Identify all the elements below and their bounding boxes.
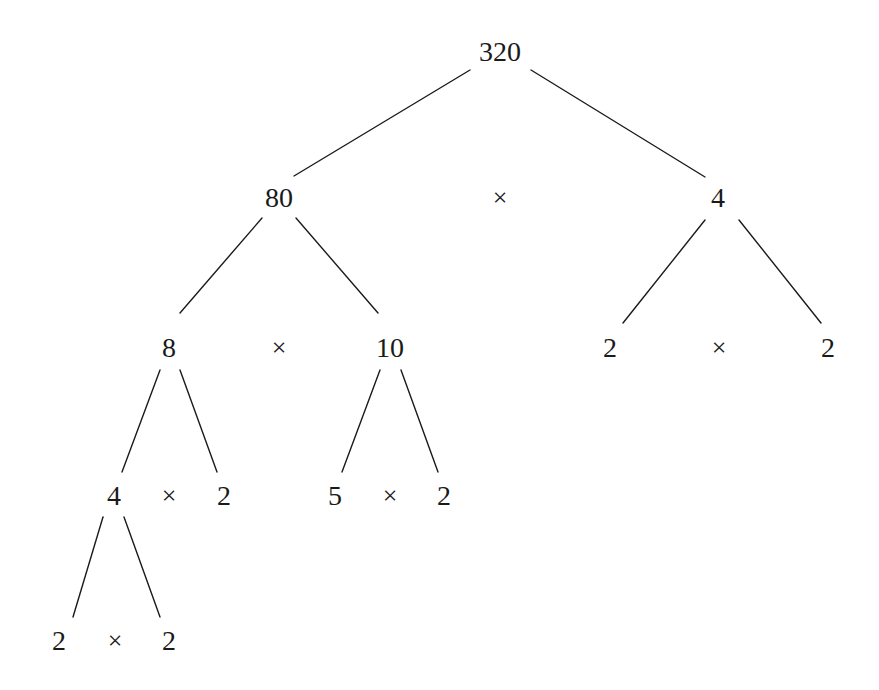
node-2-b: 2 — [821, 334, 835, 362]
times-symbol-80x4: × — [493, 185, 508, 211]
edge-8-4 — [122, 370, 160, 472]
node-2-f: 2 — [162, 627, 176, 655]
edge-80-8 — [180, 218, 262, 313]
times-symbol-8x10: × — [272, 335, 287, 361]
tree-edges — [0, 0, 879, 690]
edge-4-2-right — [739, 220, 821, 323]
node-8: 8 — [162, 334, 176, 362]
edge-10-2 — [401, 370, 438, 472]
node-2-a: 2 — [603, 334, 617, 362]
node-320: 320 — [479, 38, 521, 66]
edge-4-2-leaf-left — [73, 517, 103, 617]
edge-320-80 — [294, 70, 470, 176]
node-10: 10 — [376, 334, 404, 362]
edge-10-5 — [342, 370, 380, 472]
edge-4-2-leaf-right — [124, 517, 160, 617]
times-symbol-4x2: × — [162, 483, 177, 509]
node-4-level3: 4 — [107, 482, 121, 510]
node-2-e: 2 — [52, 627, 66, 655]
times-symbol-2x2-bottom: × — [108, 628, 123, 654]
times-symbol-5x2: × — [383, 483, 398, 509]
node-80: 80 — [265, 184, 293, 212]
edge-320-4 — [531, 70, 705, 177]
edge-4-2-left — [623, 220, 705, 323]
node-2-c: 2 — [217, 482, 231, 510]
node-5: 5 — [328, 482, 342, 510]
edge-80-10 — [296, 218, 378, 313]
node-4-level1: 4 — [711, 184, 725, 212]
node-2-d: 2 — [437, 482, 451, 510]
times-symbol-2x2-right: × — [712, 335, 727, 361]
edge-8-2 — [180, 370, 217, 472]
